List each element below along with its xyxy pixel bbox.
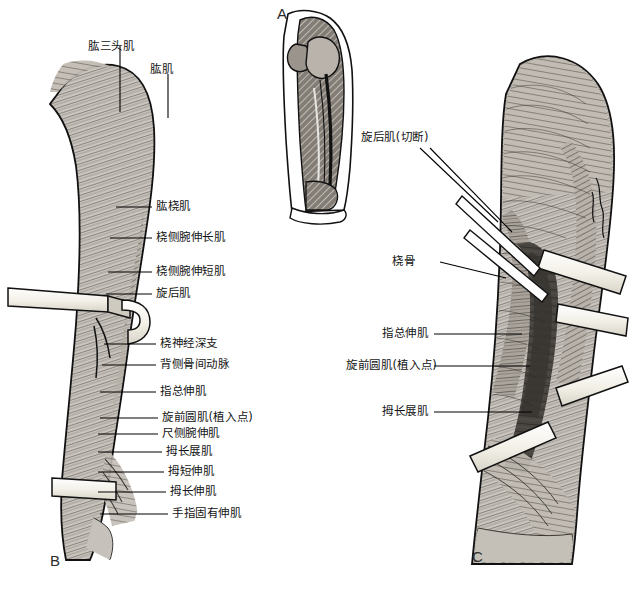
label-posterior-interosseous-artery: 背侧骨间动脉 [160, 358, 230, 371]
panel-letter-b: B [50, 552, 61, 569]
label-epb: 拇短伸肌 [168, 465, 214, 478]
retractor-blade-c-mid-right [556, 304, 628, 336]
label-edc-c: 指总伸肌 [382, 327, 428, 340]
label-apl: 拇长展肌 [166, 445, 212, 458]
label-pronator-teres-insertion: 旋前圆肌(植入点) [162, 411, 253, 424]
retractor-blade-b-upper [8, 288, 130, 318]
leader-cut-supinator-1 [420, 148, 498, 222]
retractor-blade-b-curved [122, 300, 150, 344]
label-brachialis: 肱肌 [150, 63, 173, 76]
label-ecu: 尺侧腕伸肌 [162, 427, 220, 440]
panel-c-artwork [456, 52, 628, 564]
panel-b-artwork [8, 61, 154, 560]
label-supinator: 旋后肌 [156, 287, 191, 300]
leader-cut-supinator-2 [430, 148, 512, 232]
leader-lines [98, 46, 532, 514]
label-deep-radial-nerve: 桡神经深支 [160, 337, 218, 350]
leader-radius [440, 262, 506, 278]
cut-supinator-straps [456, 196, 548, 302]
retractor-blade-c-lower-left [470, 422, 556, 472]
retractor-blade-b-lower [52, 478, 116, 500]
label-brachioradialis: 肱桡肌 [156, 200, 191, 213]
figure-root: A B C 肱三头肌 肱肌 肱桡肌 桡侧腕伸长肌 桡侧腕伸短肌 旋后肌 桡神经深… [0, 0, 631, 593]
panel-letter-c: C [472, 548, 483, 565]
retractor-blade-c-upper-right [538, 250, 626, 294]
label-supinator-divided: 旋后肌(切断) [361, 131, 429, 144]
label-epl: 拇长伸肌 [170, 485, 216, 498]
label-triceps-brachii: 肱三头肌 [88, 40, 134, 53]
panel-letter-a: A [277, 5, 288, 22]
anatomical-artwork [0, 0, 631, 593]
label-apl-c: 拇长展肌 [382, 405, 428, 418]
label-eip: 手指固有伸肌 [172, 507, 242, 520]
label-pronator-teres-insertion-c: 旋前圆肌(植入点) [346, 359, 437, 372]
label-radius: 桡骨 [392, 255, 415, 268]
label-edc: 指总伸肌 [160, 385, 206, 398]
label-ecrb: 桡侧腕伸短肌 [156, 265, 226, 278]
label-ecrl: 桡侧腕伸长肌 [156, 231, 226, 244]
retractor-blade-c-lower-right [556, 366, 628, 406]
panel-a-artwork [283, 11, 353, 225]
